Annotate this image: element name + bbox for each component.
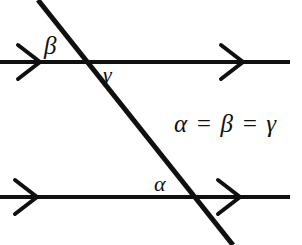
geometry-figure: β γ α α = β = γ bbox=[0, 0, 302, 245]
angle-label-alpha: α bbox=[154, 173, 166, 195]
angle-label-beta: β bbox=[44, 33, 56, 58]
angle-equality-equation: α = β = γ bbox=[174, 110, 277, 138]
angle-label-gamma: γ bbox=[103, 64, 112, 86]
